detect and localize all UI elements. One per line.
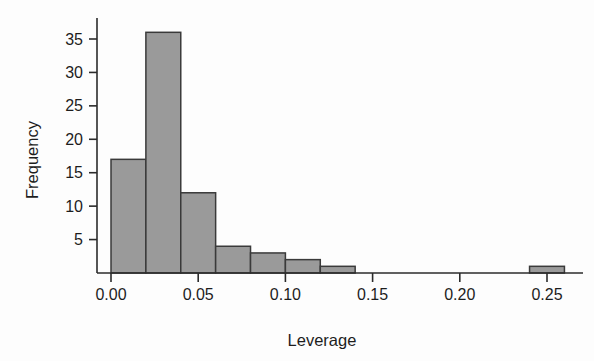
histogram-bar [530,266,565,273]
x-axis-ticks: 0.000.050.100.150.200.25 [95,273,562,303]
x-axis-title: Leverage [288,331,357,349]
y-tick-label: 10 [65,198,83,215]
histogram-bar [320,266,355,273]
y-axis-ticks: 5101520253035 [65,31,97,249]
histogram-bar [146,32,181,273]
plot-area: 5101520253035 0.000.050.100.150.200.25 L… [0,0,594,361]
x-tick-label: 0.20 [444,286,475,303]
histogram-figure: 5101520253035 0.000.050.100.150.200.25 L… [0,0,594,361]
x-tick-label: 0.00 [95,286,126,303]
y-tick-label: 25 [65,97,83,114]
histogram-bar [285,260,320,273]
histogram-bar [216,246,251,273]
bars-group [111,32,564,273]
histogram-bar [251,253,286,273]
x-tick-label: 0.25 [531,286,562,303]
y-tick-label: 15 [65,164,83,181]
y-tick-label: 35 [65,31,83,48]
y-tick-label: 30 [65,64,83,81]
x-tick-label: 0.15 [357,286,388,303]
x-tick-label: 0.10 [270,286,301,303]
y-tick-label: 20 [65,131,83,148]
y-tick-label: 5 [74,231,83,248]
y-axis-title: Frequency [23,120,41,199]
histogram-bar [181,193,216,273]
histogram-bar [111,159,146,273]
x-tick-label: 0.05 [183,286,214,303]
histogram-svg: 5101520253035 0.000.050.100.150.200.25 L… [0,0,594,361]
